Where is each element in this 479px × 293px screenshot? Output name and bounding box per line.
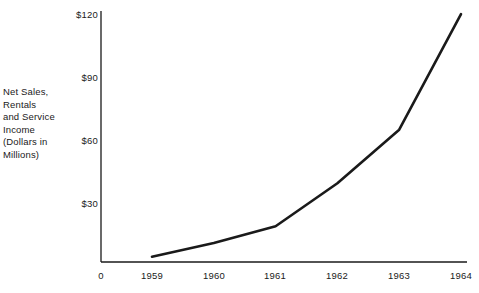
chart-figure: Net Sales, Rentals and Service Income (D…: [0, 0, 479, 293]
data-series-line: [152, 14, 461, 257]
chart-plot-area: [0, 0, 479, 293]
